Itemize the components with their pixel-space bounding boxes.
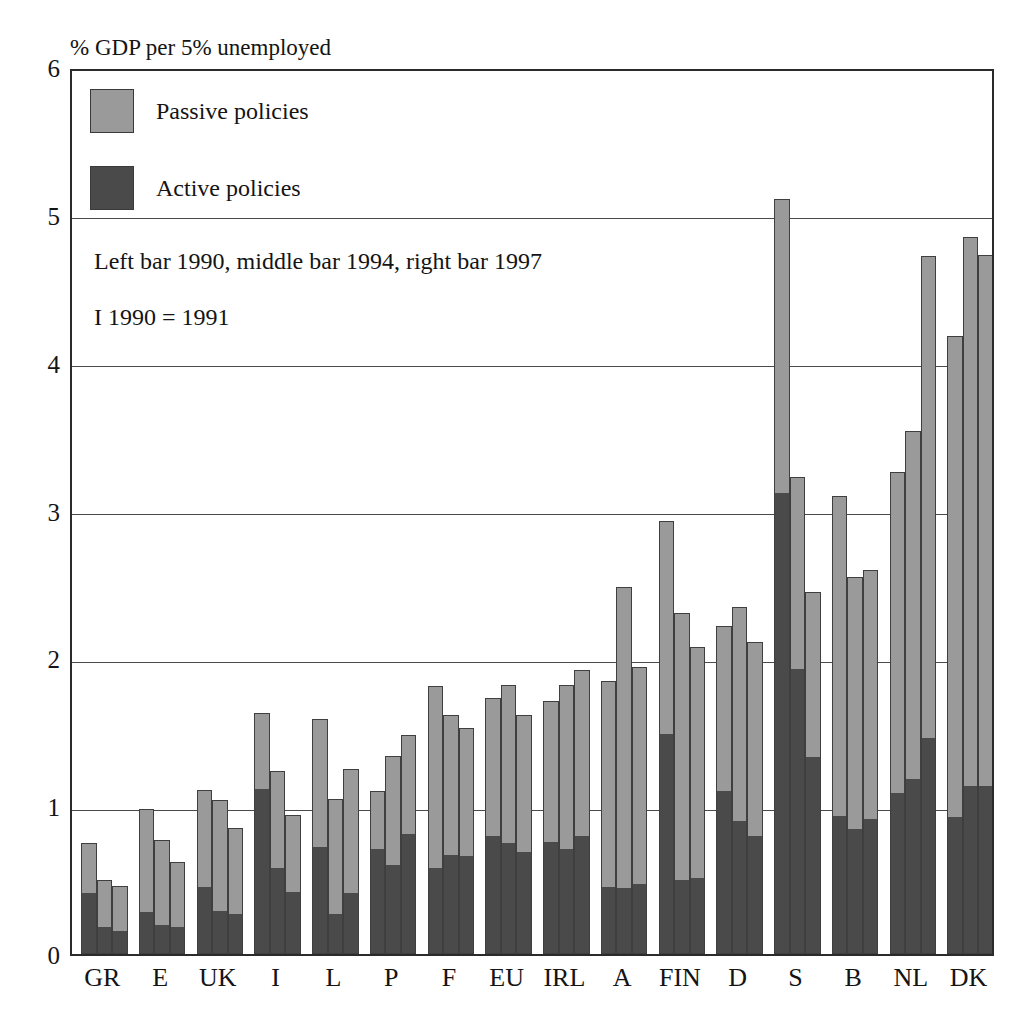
bar-GR-1994[interactable] (97, 880, 113, 954)
bar-segment-active (848, 829, 862, 953)
bar-GR-1997[interactable] (112, 886, 128, 954)
bar-segment-active (386, 865, 400, 953)
bar-segment-passive (602, 682, 616, 887)
plot-area: Passive policiesActive policies Left bar… (70, 69, 994, 956)
bar-segment-active (444, 855, 458, 953)
bar-segment-passive (748, 643, 762, 835)
bar-segment-passive (617, 588, 631, 888)
bar-group-L (312, 71, 359, 954)
bar-UK-1997[interactable] (228, 828, 244, 954)
bar-segment-active (906, 779, 920, 953)
bar-segment-passive (717, 627, 731, 792)
bar-E-1997[interactable] (170, 862, 186, 954)
bar-segment-active (329, 914, 343, 953)
bar-group-NL (890, 71, 937, 954)
bar-IRL-1994[interactable] (559, 685, 575, 954)
bar-B-1997[interactable] (863, 570, 879, 954)
bar-segment-passive (313, 720, 327, 848)
bar-S-1994[interactable] (790, 477, 806, 955)
bar-segment-passive (848, 578, 862, 829)
bar-D-1990[interactable] (716, 626, 732, 954)
bar-I-1997[interactable] (285, 815, 301, 954)
bar-segment-active (460, 856, 474, 953)
bar-segment-passive (198, 791, 212, 887)
bar-UK-1994[interactable] (212, 800, 228, 954)
bar-group-UK (197, 71, 244, 954)
bar-L-1990[interactable] (312, 719, 328, 954)
bar-segment-passive (286, 816, 300, 892)
bar-A-1990[interactable] (601, 681, 617, 954)
bar-segment-passive (806, 593, 820, 758)
bar-segment-active (617, 888, 631, 953)
bar-DK-1990[interactable] (947, 336, 963, 954)
bar-segment-passive (113, 887, 127, 931)
bar-FIN-1994[interactable] (674, 613, 690, 954)
bar-D-1994[interactable] (732, 607, 748, 954)
bar-segment-passive (964, 238, 978, 786)
bar-P-1990[interactable] (370, 791, 386, 954)
bar-segment-passive (98, 881, 112, 927)
y-tick-label-4: 4 (16, 352, 60, 377)
y-tick-label-0: 0 (16, 943, 60, 968)
bar-segment-active (891, 793, 905, 953)
bar-group-B (832, 71, 879, 954)
bar-D-1997[interactable] (747, 642, 763, 954)
bar-EU-1990[interactable] (485, 698, 501, 954)
x-tick-label-GR: GR (84, 962, 120, 994)
bar-segment-active (213, 911, 227, 953)
bar-NL-1994[interactable] (905, 431, 921, 954)
bar-segment-passive (922, 257, 936, 738)
bar-F-1994[interactable] (443, 715, 459, 954)
bar-B-1994[interactable] (847, 577, 863, 954)
bar-segment-passive (864, 571, 878, 820)
bar-E-1990[interactable] (139, 809, 155, 954)
bar-B-1990[interactable] (832, 496, 848, 954)
bar-segment-active (544, 842, 558, 953)
x-tick-label-D: D (728, 962, 747, 994)
bar-EU-1994[interactable] (501, 685, 517, 954)
bar-segment-active (775, 493, 789, 953)
bar-E-1994[interactable] (154, 840, 170, 954)
bar-segment-active (733, 821, 747, 953)
bar-NL-1990[interactable] (890, 472, 906, 954)
bar-FIN-1997[interactable] (690, 647, 706, 954)
bar-I-1990[interactable] (254, 713, 270, 954)
y-tick-label-3: 3 (16, 500, 60, 525)
bar-segment-passive (733, 608, 747, 821)
bar-segment-active (82, 893, 96, 953)
bar-segment-active (675, 880, 689, 953)
bar-segment-active (602, 887, 616, 953)
bar-group-F (428, 71, 475, 954)
bar-F-1997[interactable] (459, 728, 475, 954)
bar-DK-1994[interactable] (963, 237, 979, 954)
bar-P-1997[interactable] (401, 735, 417, 954)
bar-S-1997[interactable] (805, 592, 821, 954)
bar-UK-1990[interactable] (197, 790, 213, 954)
bar-P-1994[interactable] (385, 756, 401, 954)
bar-IRL-1997[interactable] (574, 670, 590, 954)
bar-group-P (370, 71, 417, 954)
x-axis-labels: GREUKILPFEUIRLAFINDSBNLDK (70, 962, 994, 1010)
bar-GR-1990[interactable] (81, 843, 97, 954)
bar-FIN-1990[interactable] (659, 521, 675, 954)
bar-segment-passive (833, 497, 847, 816)
bar-segment-passive (675, 614, 689, 880)
bar-segment-active (98, 927, 112, 953)
bar-EU-1997[interactable] (516, 715, 532, 954)
bar-A-1997[interactable] (632, 667, 648, 954)
bar-segment-passive (891, 473, 905, 792)
y-tick-label-2: 2 (16, 647, 60, 672)
bar-NL-1997[interactable] (921, 256, 937, 954)
bar-L-1997[interactable] (343, 769, 359, 954)
bar-group-FIN (659, 71, 706, 954)
bar-IRL-1990[interactable] (543, 701, 559, 954)
bar-L-1994[interactable] (328, 799, 344, 954)
bar-I-1994[interactable] (270, 771, 286, 954)
bar-DK-1997[interactable] (978, 255, 994, 954)
bar-S-1990[interactable] (774, 199, 790, 954)
bar-segment-passive (386, 757, 400, 865)
bar-F-1990[interactable] (428, 686, 444, 954)
bar-segment-passive (171, 863, 185, 927)
bar-A-1994[interactable] (616, 587, 632, 954)
bar-segment-passive (460, 729, 474, 856)
